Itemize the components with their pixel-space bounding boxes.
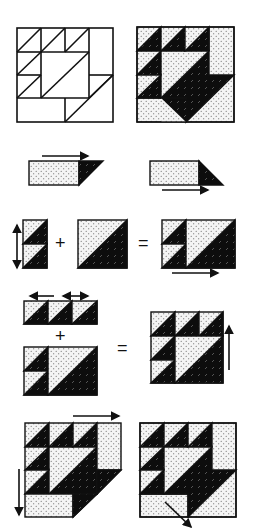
step5-finished-block — [140, 423, 236, 517]
step5-assembly — [25, 423, 121, 517]
step3-result — [162, 220, 235, 268]
equals-operator: = — [138, 234, 149, 252]
block-shaded-diagram — [137, 27, 234, 122]
step4-lower-section — [24, 347, 97, 395]
step2-unit-left — [29, 161, 103, 185]
equals-operator: = — [117, 339, 128, 357]
block-outline-diagram — [17, 28, 113, 122]
quilt-diagram — [0, 0, 254, 531]
step2-unit-right — [150, 161, 223, 185]
step3-hst-stack — [23, 220, 47, 268]
step4-result — [151, 312, 223, 383]
plus-operator: + — [55, 327, 66, 345]
step4-hst-row — [24, 301, 97, 324]
plus-operator: + — [55, 234, 66, 252]
step3-large-hst — [78, 220, 127, 268]
